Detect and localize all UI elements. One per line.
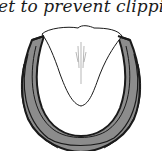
horseshoe-icon xyxy=(18,24,144,151)
horseshoe-illustration xyxy=(18,24,144,151)
caption-text: et to prevent clippi xyxy=(0,0,162,16)
